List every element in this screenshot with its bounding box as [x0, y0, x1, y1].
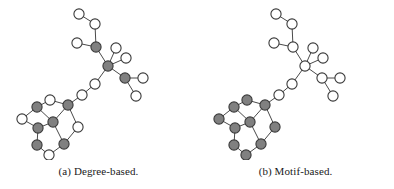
graph-node-branch-upper — [288, 42, 298, 52]
graph-node-ring — [242, 95, 252, 105]
graph-node-ring — [270, 122, 280, 132]
graph-node-ring — [32, 140, 42, 150]
graph-node-linker — [77, 90, 87, 100]
graph-node-branch-upper — [91, 42, 101, 52]
graph-node-branch-upper — [72, 38, 82, 48]
graph-node-ring — [44, 150, 54, 160]
edge-layer — [22, 14, 143, 155]
graph-node-branch-lower-leaf — [131, 91, 141, 101]
molecule-graph-motif-based — [197, 0, 394, 160]
caption-degree-based: (a) Degree-based. — [0, 165, 197, 177]
graph-node-ring — [256, 139, 266, 149]
graph-node-linker — [90, 79, 100, 89]
graph-node-ring — [214, 114, 224, 124]
graph-node-ring — [32, 102, 42, 112]
graph-node-branch-lower — [317, 73, 327, 83]
graph-node-branch-lower-leaf — [328, 91, 338, 101]
edge-layer — [219, 14, 340, 155]
graph-node-branch-lower-leaf — [335, 73, 345, 83]
graph-node-ring — [260, 100, 270, 110]
molecule-graph-degree-based — [0, 0, 197, 160]
molecule-svg-degree-based — [0, 0, 197, 160]
graph-node-hub-leaf — [308, 43, 318, 53]
graph-node-linker — [274, 90, 284, 100]
graph-node-chain-top — [271, 9, 281, 19]
graph-node-chain-top — [287, 19, 297, 29]
graph-node-ring — [245, 117, 255, 127]
figure-root: (a) Degree-based. (b) Motif-based. — [0, 0, 394, 189]
graph-node-ring — [73, 122, 83, 132]
graph-node-hub-leaf — [318, 53, 328, 63]
graph-node-linker — [287, 79, 297, 89]
graph-node-branch-lower-leaf — [138, 73, 148, 83]
panel-motif-based: (b) Motif-based. — [197, 0, 394, 189]
graph-node-hub-leaf — [111, 43, 121, 53]
graph-node-ring — [33, 123, 43, 133]
graph-node-hub-leaf — [121, 53, 131, 63]
graph-node-chain-top — [74, 9, 84, 19]
graph-node-ring — [241, 150, 251, 160]
graph-node-branch-lower — [120, 73, 130, 83]
caption-motif-based: (b) Motif-based. — [197, 165, 394, 177]
graph-node-hub — [300, 61, 310, 71]
graph-node-ring — [48, 117, 58, 127]
graph-node-ring — [230, 123, 240, 133]
graph-node-ring — [229, 140, 239, 150]
graph-node-hub — [103, 61, 113, 71]
graph-node-chain-top — [90, 19, 100, 29]
graph-node-ring — [63, 100, 73, 110]
graph-node-ring — [45, 95, 55, 105]
graph-node-ring — [229, 102, 239, 112]
panel-degree-based: (a) Degree-based. — [0, 0, 197, 189]
molecule-svg-motif-based — [197, 0, 394, 160]
graph-node-branch-upper — [269, 38, 279, 48]
graph-node-ring — [59, 139, 69, 149]
graph-node-ring — [17, 114, 27, 124]
